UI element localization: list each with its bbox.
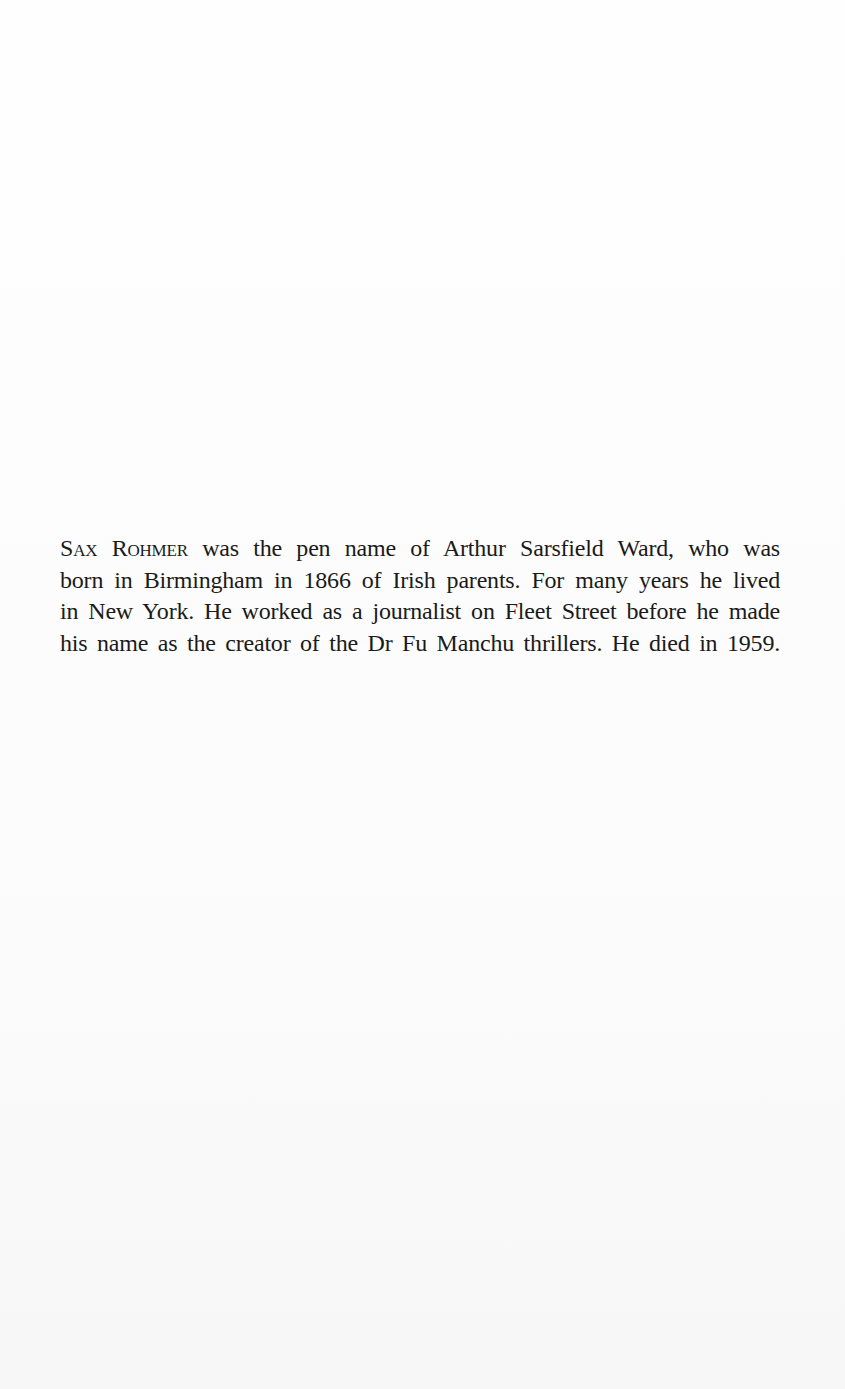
bio-line-3: in New York. He worked as a journalist o… <box>60 596 780 628</box>
bio-line-1-text: was the pen name of Arthur Sarsfield War… <box>188 535 780 561</box>
author-biography: Sax Rohmer was the pen name of Arthur Sa… <box>60 533 780 659</box>
bio-line-1: Sax Rohmer was the pen name of Arthur Sa… <box>60 533 780 565</box>
bio-line-2: born in Birmingham in 1866 of Irish pare… <box>60 565 780 597</box>
author-pen-name: Sax Rohmer <box>60 535 188 561</box>
bio-line-4: his name as the creator of the Dr Fu Man… <box>60 628 780 660</box>
book-page: Sax Rohmer was the pen name of Arthur Sa… <box>0 0 845 1389</box>
